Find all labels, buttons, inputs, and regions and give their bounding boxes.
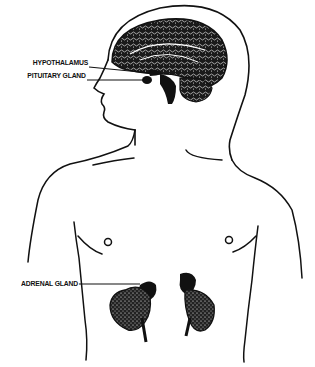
torso-outline — [28, 130, 302, 362]
brain — [112, 19, 227, 104]
body-illustration — [0, 0, 315, 367]
leader-lines — [79, 67, 150, 284]
label-pituitary-gland: PITUITARY GLAND — [27, 71, 86, 80]
kidneys — [110, 273, 214, 342]
label-hypothalamus: HYPOTHALAMUS — [33, 58, 88, 67]
endocrine-diagram: HYPOTHALAMUS PITUITARY GLAND ADRENAL GLA… — [0, 0, 315, 367]
label-adrenal-gland: ADRENAL GLAND — [21, 279, 78, 288]
